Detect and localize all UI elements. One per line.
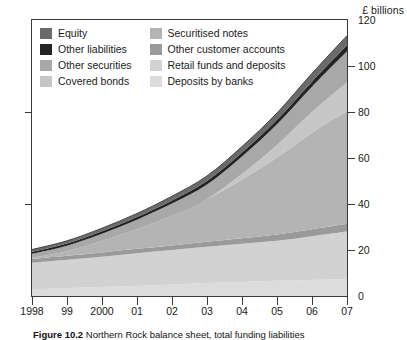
legend-swatch	[150, 60, 162, 71]
x-axis-tick-label: 07	[341, 306, 353, 317]
legend-item: Deposits by banks	[150, 74, 286, 89]
x-axis-tick-label: 06	[306, 306, 318, 317]
legend-swatch	[150, 28, 162, 39]
x-axis-tick	[172, 297, 173, 305]
legend-swatch	[150, 44, 162, 55]
legend-label: Other securities	[58, 60, 132, 71]
y-axis-tick-label: 120	[358, 15, 376, 25]
legend-item: Other customer accounts	[150, 42, 286, 57]
x-axis-tick	[347, 297, 348, 305]
legend-label: Other liabilities	[58, 44, 127, 55]
legend-item: Retail funds and deposits	[150, 58, 286, 73]
x-axis-tick	[102, 297, 103, 305]
x-axis-tick	[277, 297, 278, 305]
legend-swatch	[40, 60, 52, 71]
figure-number: Figure 10.2	[33, 329, 83, 340]
x-axis-tick-label: 01	[131, 306, 143, 317]
x-axis-tick	[207, 297, 208, 305]
x-axis-tick-label: 2000	[90, 306, 113, 317]
legend-item: Covered bonds	[40, 74, 132, 89]
x-axis-tick	[137, 297, 138, 305]
legend-label: Securitised notes	[168, 28, 249, 39]
y-axis-tick-label: 100	[358, 61, 376, 71]
figure-caption: Figure 10.2 Northern Rock balance sheet,…	[33, 329, 304, 340]
x-axis-tick-label: 03	[201, 306, 213, 317]
x-axis-tick-label: 04	[236, 306, 248, 317]
x-axis-tick-label: 02	[166, 306, 178, 317]
y-axis-tick-label: 0	[358, 291, 364, 301]
y-axis-tick	[348, 250, 355, 251]
y-axis-tick	[348, 204, 355, 205]
y-axis-tick-label: 60	[358, 153, 370, 163]
y-axis-tick-label: 80	[358, 107, 370, 117]
x-axis-tick	[242, 297, 243, 305]
y-axis-tick	[348, 66, 355, 67]
legend-label: Retail funds and deposits	[168, 60, 286, 71]
x-axis-tick-label: 05	[271, 306, 283, 317]
figure-caption-text: Northern Rock balance sheet, total fundi…	[86, 329, 305, 340]
legend-label: Other customer accounts	[168, 44, 285, 55]
y-axis-left-tick	[25, 204, 32, 205]
x-axis-tick-label: 1998	[20, 306, 43, 317]
x-axis-tick	[67, 297, 68, 305]
legend-item: Equity	[40, 26, 132, 41]
y-axis-left-tick	[25, 112, 32, 113]
chart-legend: EquitySecuritised notesOther liabilities…	[40, 26, 285, 89]
y-axis-tick	[348, 112, 355, 113]
legend-swatch	[150, 76, 162, 87]
legend-item: Securitised notes	[150, 26, 286, 41]
legend-label: Deposits by banks	[168, 76, 254, 87]
x-axis-tick-label: 99	[61, 306, 73, 317]
y-axis-tick-label: 40	[358, 199, 370, 209]
y-axis-tick-label: 20	[358, 245, 370, 255]
legend-swatch	[40, 28, 52, 39]
legend-item: Other liabilities	[40, 42, 132, 57]
legend-label: Covered bonds	[58, 76, 129, 87]
x-axis-tick	[312, 297, 313, 305]
legend-label: Equity	[58, 28, 87, 39]
legend-swatch	[40, 76, 52, 87]
x-axis-tick	[32, 297, 33, 305]
y-axis-tick	[348, 158, 355, 159]
legend-swatch	[40, 44, 52, 55]
legend-item: Other securities	[40, 58, 132, 73]
